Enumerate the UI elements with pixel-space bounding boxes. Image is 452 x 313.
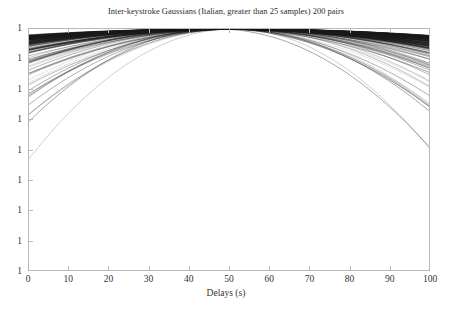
y-tick-label: 1	[0, 145, 22, 155]
x-tick-label: 30	[134, 274, 164, 285]
y-tick-mark	[28, 119, 33, 120]
x-axis-label: Delays (s)	[0, 288, 452, 298]
y-tick-label: 1	[0, 205, 22, 215]
x-tick-label: 70	[294, 274, 324, 285]
x-tick-mark-top	[149, 28, 150, 33]
y-tick-mark	[28, 180, 33, 181]
plot-area	[28, 28, 430, 271]
x-tick-label: 80	[335, 274, 365, 285]
x-tick-mark-top	[108, 28, 109, 33]
x-tick-mark-bottom	[269, 266, 270, 271]
x-tick-mark-bottom	[350, 266, 351, 271]
x-tick-label: 50	[214, 274, 244, 285]
y-tick-mark	[28, 241, 33, 242]
x-tick-mark-bottom	[108, 266, 109, 271]
x-tick-mark-bottom	[189, 266, 190, 271]
x-tick-mark-bottom	[68, 266, 69, 271]
y-tick-label: 1	[0, 236, 22, 246]
x-tick-mark-top	[229, 28, 230, 33]
y-tick-mark	[28, 210, 33, 211]
x-tick-mark-top	[309, 28, 310, 33]
x-tick-label: 10	[53, 274, 83, 285]
x-tick-label: 40	[174, 274, 204, 285]
y-tick-mark	[28, 58, 33, 59]
chart-figure: Inter-keystroke Gaussians (Italian, grea…	[0, 0, 452, 313]
y-tick-label: 1	[0, 84, 22, 94]
x-tick-label: 20	[93, 274, 123, 285]
x-tick-mark-bottom	[229, 266, 230, 271]
gaussian-curves-svg	[29, 29, 429, 270]
y-tick-label: 1	[0, 23, 22, 33]
page-title: Inter-keystroke Gaussians (Italian, grea…	[0, 7, 452, 16]
x-tick-label: 90	[375, 274, 405, 285]
x-tick-label: 0	[13, 274, 43, 285]
x-tick-mark-top	[390, 28, 391, 33]
y-tick-label: 1	[0, 53, 22, 63]
x-tick-mark-top	[189, 28, 190, 33]
x-tick-mark-bottom	[390, 266, 391, 271]
y-tick-label: 1	[0, 114, 22, 124]
x-tick-mark-top	[269, 28, 270, 33]
x-tick-mark-top	[350, 28, 351, 33]
y-tick-mark	[28, 89, 33, 90]
x-tick-label: 60	[254, 274, 284, 285]
x-tick-mark-top	[68, 28, 69, 33]
y-tick-label: 1	[0, 175, 22, 185]
x-tick-mark-bottom	[309, 266, 310, 271]
x-tick-label: 100	[415, 274, 445, 285]
x-tick-mark-bottom	[149, 266, 150, 271]
y-tick-mark	[28, 150, 33, 151]
